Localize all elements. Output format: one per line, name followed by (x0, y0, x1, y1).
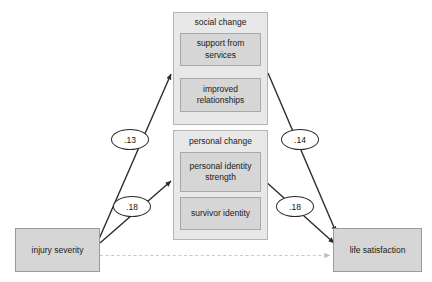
coefficient-personal-to-life: .18 (276, 196, 314, 217)
indicator-personal-identity-strength: personal identity strength (180, 152, 261, 192)
node-injury-severity: injury severity (15, 228, 100, 272)
indicator-improved-relationships: improved relationships (180, 78, 261, 112)
group-social-change-title: social change (173, 17, 268, 27)
group-personal-change-title: personal change (173, 136, 268, 146)
coefficient-social-to-life: .14 (281, 129, 319, 150)
indicator-survivor-identity: survivor identity (180, 197, 261, 230)
coefficient-injury-to-personal: .18 (113, 196, 151, 217)
path-diagram-canvas: social change support from services impr… (0, 0, 432, 282)
indicator-support-from-services: support from services (180, 33, 261, 66)
node-life-satisfaction: life satisfaction (333, 228, 422, 272)
coefficient-injury-to-social: .13 (111, 129, 149, 150)
